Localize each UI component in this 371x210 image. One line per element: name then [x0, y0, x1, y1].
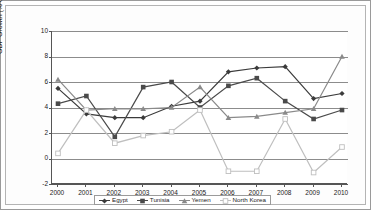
y-tick-label: 6 [30, 79, 48, 86]
y-tick-label: 10 [30, 28, 48, 35]
data-point-marker [113, 135, 118, 140]
data-point-marker [283, 117, 288, 122]
x-tick-mark [199, 184, 200, 187]
data-point-marker [339, 54, 345, 59]
data-point-marker [311, 117, 316, 122]
legend-label: North Korea [233, 197, 266, 203]
y-tick-label: 4 [30, 104, 48, 111]
legend-label: Yemen [192, 197, 211, 203]
data-point-marker [226, 169, 231, 174]
data-point-marker [339, 91, 344, 96]
data-point-marker [223, 198, 228, 203]
y-tick-label: 0 [30, 155, 48, 162]
data-point-marker [197, 84, 203, 89]
plot-area: -20246810 [51, 31, 347, 184]
data-point-marker [340, 145, 345, 150]
series-line [58, 110, 342, 172]
data-point-marker [283, 99, 288, 104]
legend-label: Tunisia [150, 197, 170, 203]
data-point-marker [169, 80, 174, 85]
x-tick-mark [171, 184, 172, 187]
x-tick-mark [142, 184, 143, 187]
legend-item-north-korea[interactable]: North Korea [220, 197, 266, 203]
x-tick-mark [57, 184, 58, 187]
data-point-marker [113, 141, 118, 146]
x-tick-mark [85, 184, 86, 187]
x-tick-mark [227, 184, 228, 187]
data-point-marker [141, 115, 146, 120]
data-point-marker [141, 133, 146, 138]
y-axis-title: GDP Growth (% change) [0, 0, 3, 54]
legend-item-egypt[interactable]: Egypt [99, 197, 128, 203]
legend-label: Egypt [112, 197, 128, 203]
data-point-marker [255, 76, 260, 81]
data-point-marker [255, 169, 260, 174]
data-point-marker [340, 108, 345, 113]
x-tick-mark [256, 184, 257, 187]
data-point-marker [141, 85, 146, 90]
legend-swatch-icon [179, 200, 190, 201]
data-point-marker [84, 108, 89, 113]
y-tick-label: 2 [30, 130, 48, 137]
data-point-marker [198, 108, 203, 113]
data-point-marker [140, 198, 145, 203]
y-tick-label: -2 [30, 181, 48, 188]
data-point-marker [102, 198, 107, 203]
chart-frame: GDP Growth (% change) -20246810 20002001… [0, 0, 371, 210]
data-point-marker [169, 129, 174, 134]
x-tick-label: 2009 [298, 190, 328, 197]
x-tick-mark [341, 184, 342, 187]
data-point-marker [254, 65, 259, 70]
data-point-marker [311, 170, 316, 175]
data-point-marker [84, 94, 89, 99]
legend-swatch-icon [137, 200, 148, 201]
legend-item-tunisia[interactable]: Tunisia [137, 197, 170, 203]
data-point-marker [181, 198, 187, 203]
x-tick-mark [313, 184, 314, 187]
y-tick-label: 8 [30, 53, 48, 60]
data-point-marker [55, 77, 61, 82]
legend-item-yemen[interactable]: Yemen [179, 197, 211, 203]
data-point-marker [226, 84, 231, 89]
data-point-marker [56, 151, 61, 156]
data-point-marker [112, 115, 117, 120]
legend-swatch-icon [99, 200, 110, 201]
x-tick-label: 2000 [42, 190, 72, 197]
x-tick-label: 2010 [326, 190, 356, 197]
legend-swatch-icon [220, 200, 231, 201]
x-tick-mark [284, 184, 285, 187]
series-north-korea [56, 108, 345, 175]
data-point-marker [56, 101, 61, 106]
chart-inner-border: GDP Growth (% change) -20246810 20002001… [5, 5, 366, 205]
x-tick-mark [114, 184, 115, 187]
data-series-layer [52, 31, 348, 184]
chart-legend: EgyptTunisiaYemenNorth Korea [94, 195, 271, 205]
x-tick-label: 2008 [269, 190, 299, 197]
